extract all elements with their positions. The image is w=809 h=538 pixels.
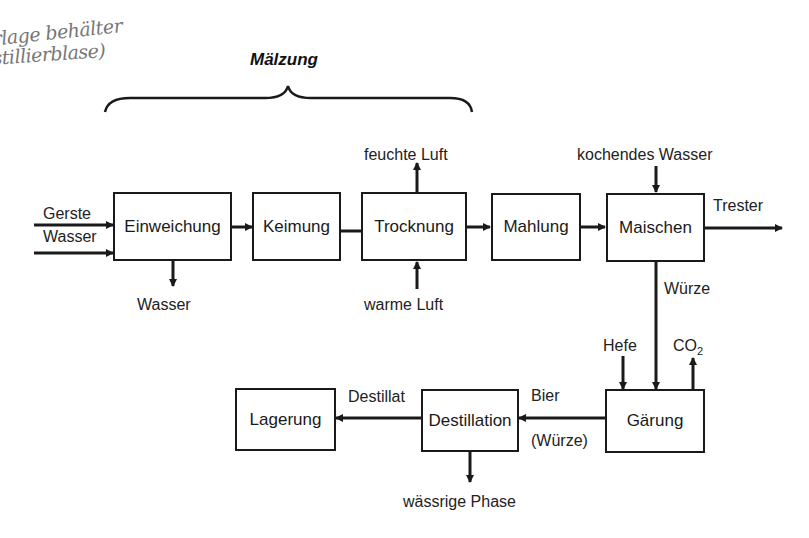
co2-subscript: 2 xyxy=(697,345,703,357)
diagram-connectors xyxy=(0,0,809,538)
label-bier: Bier xyxy=(531,387,559,405)
process-box-einweichung: Einweichung xyxy=(113,192,232,261)
process-box-maischen: Maischen xyxy=(606,193,705,262)
label-gerste: Gerste xyxy=(43,205,91,223)
label-wuerze-paren: (Würze) xyxy=(531,432,588,450)
box-label: Maischen xyxy=(619,218,692,238)
process-box-destillation: Destillation xyxy=(421,389,519,452)
label-kochendes-wasser: kochendes Wasser xyxy=(577,146,712,164)
box-label: Gärung xyxy=(627,411,684,431)
box-label: Keimung xyxy=(263,217,330,237)
label-trester: Trester xyxy=(713,197,763,215)
label-co2: CO2 xyxy=(673,337,703,357)
process-box-trocknung: Trocknung xyxy=(361,192,467,261)
label-feuchte-luft: feuchte Luft xyxy=(364,146,448,164)
process-box-lagerung: Lagerung xyxy=(235,388,336,451)
co2-text: CO xyxy=(673,337,697,354)
box-label: Lagerung xyxy=(250,410,322,430)
box-label: Trocknung xyxy=(374,217,454,237)
label-waessrige-phase: wässrige Phase xyxy=(403,493,516,511)
process-box-mahlung: Mahlung xyxy=(491,193,581,261)
process-box-keimung: Keimung xyxy=(252,192,341,261)
label-wasser-in: Wasser xyxy=(43,228,97,246)
label-hefe: Hefe xyxy=(603,337,637,355)
brace-icon xyxy=(105,86,472,112)
label-wasser-out: Wasser xyxy=(137,296,191,314)
process-box-gaerung: Gärung xyxy=(605,389,705,453)
label-wuerze: Würze xyxy=(664,280,710,298)
label-destillat: Destillat xyxy=(348,388,405,406)
box-label: Destillation xyxy=(428,411,511,431)
label-warme-luft: warme Luft xyxy=(364,296,443,314)
box-label: Mahlung xyxy=(503,217,568,237)
box-label: Einweichung xyxy=(124,217,220,237)
